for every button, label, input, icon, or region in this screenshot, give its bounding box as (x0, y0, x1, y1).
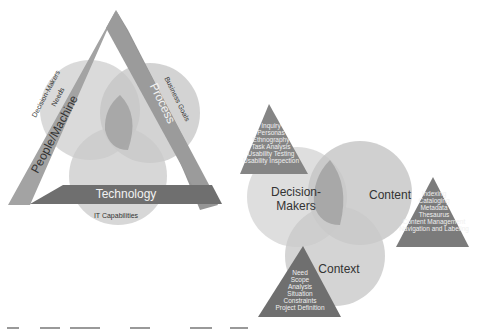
content-item: Thesaurus (419, 211, 450, 218)
technology-label: Technology (96, 187, 157, 201)
context-item: Project Definition (275, 304, 325, 312)
decision-makers-label-1: Decision- (271, 185, 321, 199)
it-capabilities-label: IT Capabilities (94, 212, 139, 220)
context-item: Constraints (284, 297, 318, 304)
content-item: Navigation and Labeling (399, 225, 469, 233)
context-label: Context (318, 262, 360, 276)
context-item: Situation (287, 290, 313, 297)
content-label: Content (369, 188, 412, 202)
decision-makers-label-2: Makers (276, 199, 315, 213)
users-item: Personas (257, 129, 285, 136)
context-item: Need (292, 269, 308, 276)
content-item: Metadata (420, 204, 447, 211)
users-item: Usability Inspection (243, 157, 299, 165)
diagram-canvas: People/Machine Process Technology Decisi… (0, 0, 478, 329)
